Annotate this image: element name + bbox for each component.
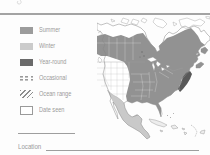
location-field: Location (18, 142, 199, 151)
location-write-in-line (46, 142, 199, 151)
bahamas-specks (167, 113, 174, 118)
legend-item-occasional: Occasional (20, 74, 96, 82)
legend-item-ocean-range: Ocean range (20, 90, 96, 98)
legend-label: Winter (39, 42, 55, 50)
location-label: Location (18, 142, 41, 151)
legend-label: Year-round (39, 58, 66, 66)
year-round-swatch-icon (20, 59, 33, 66)
legend-label: Summer (39, 26, 60, 34)
cropped-text-artifact (16, 0, 28, 6)
date-seen-box (20, 106, 33, 115)
legend-item-summer: Summer (20, 26, 96, 34)
summer-swatch-icon (20, 27, 33, 34)
map-legend: Summer Winter Year-round Occasional Ocea… (20, 26, 96, 122)
field-guide-page: Summer Winter Year-round Occasional Ocea… (0, 0, 210, 155)
lesser-antilles-arc (191, 125, 197, 137)
legend-label: Date seen (39, 106, 64, 114)
winter-swatch-icon (20, 43, 33, 50)
occasional-dashes-icon (20, 75, 33, 82)
ocean-hatch-icon (20, 90, 33, 98)
legend-item-winter: Winter (20, 42, 96, 50)
caribbean-islands (149, 119, 205, 135)
range-map (97, 16, 210, 140)
legend-label: Ocean range (39, 90, 71, 98)
blank-write-in-line (18, 133, 75, 134)
legend-item-year-round: Year-round (20, 58, 96, 66)
legend-label: Occasional (39, 74, 67, 82)
legend-item-date-seen: Date seen (20, 106, 96, 114)
top-divider-rule (0, 13, 210, 15)
